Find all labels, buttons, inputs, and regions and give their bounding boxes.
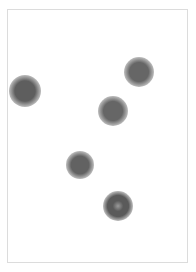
blurred-dot [9, 75, 41, 107]
blurred-dot [103, 191, 133, 221]
blurred-dot [66, 151, 94, 179]
blurred-dot [124, 57, 154, 87]
image-frame [7, 9, 188, 263]
blurred-dot [98, 96, 128, 126]
